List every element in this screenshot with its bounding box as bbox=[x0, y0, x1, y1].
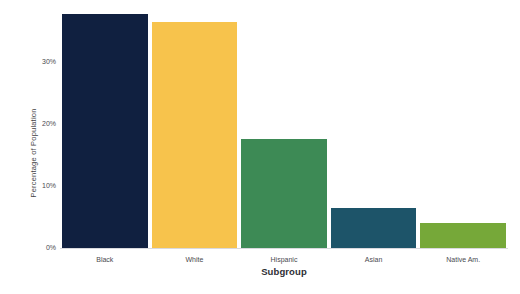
y-axis-tick-label: 20% bbox=[22, 120, 56, 128]
x-axis-tick-label: Asian bbox=[329, 255, 419, 265]
bar-asian[interactable] bbox=[331, 208, 417, 248]
bar-chart: Percentage of Population 0%10%20%30% Bla… bbox=[0, 0, 520, 294]
y-axis-tick-label: 10% bbox=[22, 182, 56, 190]
x-axis-tick-label: Black bbox=[60, 255, 150, 265]
bar-white[interactable] bbox=[152, 22, 238, 248]
bar-slot bbox=[152, 8, 238, 248]
x-axis-baseline bbox=[60, 248, 508, 249]
x-axis-tick-label: Hispanic bbox=[239, 255, 329, 265]
bar-slot bbox=[420, 8, 506, 248]
y-axis-tick-label: 30% bbox=[22, 58, 56, 66]
x-axis-tick-label: Native Am. bbox=[418, 255, 508, 265]
y-axis-tick-labels: 0%10%20%30% bbox=[22, 0, 56, 294]
y-axis-tick-label: 0% bbox=[22, 244, 56, 252]
x-axis-title: Subgroup bbox=[60, 266, 508, 277]
bar-hispanic[interactable] bbox=[241, 139, 327, 248]
bar-native-am[interactable] bbox=[420, 223, 506, 248]
bar-slot bbox=[241, 8, 327, 248]
bar-black[interactable] bbox=[62, 14, 148, 248]
bar-slot bbox=[331, 8, 417, 248]
plot-area bbox=[60, 8, 508, 248]
bar-slot bbox=[62, 8, 148, 248]
x-axis-tick-label: White bbox=[150, 255, 240, 265]
